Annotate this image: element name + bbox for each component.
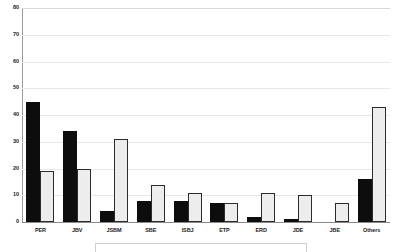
- bar-group: [316, 8, 353, 222]
- y-tick-label: 10: [0, 192, 19, 198]
- bar-series-2[interactable]: [298, 195, 312, 222]
- bar-series-2[interactable]: [151, 185, 165, 222]
- x-axis-label: Others: [353, 228, 390, 234]
- x-axis-label: PER: [22, 228, 59, 234]
- bar-series-1[interactable]: [63, 131, 77, 222]
- x-axis-label: SBE: [132, 228, 169, 234]
- y-tick-label: 80: [0, 5, 19, 11]
- bar-group: [206, 8, 243, 222]
- x-axis-label: ERD: [243, 228, 280, 234]
- bar-group: [96, 8, 133, 222]
- y-tick-label: 40: [0, 112, 19, 118]
- y-tick-label: 20: [0, 166, 19, 172]
- bar-group: [353, 8, 390, 222]
- bar-group: [280, 8, 317, 222]
- x-axis-label: JBV: [59, 228, 96, 234]
- bar-group: [169, 8, 206, 222]
- bar-group: [243, 8, 280, 222]
- x-axis-label: ETP: [206, 228, 243, 234]
- bar-series-1[interactable]: [137, 201, 151, 222]
- bar-group: [22, 8, 59, 222]
- x-axis-label: JDE: [280, 228, 317, 234]
- bar-series-2[interactable]: [40, 171, 54, 222]
- bar-series-2[interactable]: [114, 139, 128, 222]
- y-tick-label: 0: [0, 219, 19, 225]
- bar-series-2[interactable]: [224, 203, 238, 222]
- bar-series-1[interactable]: [358, 179, 372, 222]
- x-axis-labels: PERJBVJSBMSBEISBJETPERDJDEJBEOthers: [22, 228, 390, 234]
- bar-chart: 01020304050607080 PERJBVJSBMSBEISBJETPER…: [0, 0, 393, 252]
- bar-series-1[interactable]: [100, 211, 114, 222]
- bar-series-2[interactable]: [77, 169, 91, 223]
- y-tick-label: 60: [0, 59, 19, 65]
- bar-groups: [22, 8, 390, 222]
- bottom-frame: [95, 243, 307, 252]
- bar-series-2[interactable]: [335, 203, 349, 222]
- bar-series-1[interactable]: [210, 203, 224, 222]
- plot-area: [22, 8, 390, 222]
- x-axis-label: JBE: [316, 228, 353, 234]
- bar-series-2[interactable]: [372, 107, 386, 222]
- bar-group: [132, 8, 169, 222]
- bar-series-1[interactable]: [284, 219, 298, 222]
- bar-series-2[interactable]: [188, 193, 202, 222]
- bar-group: [59, 8, 96, 222]
- y-tick-label: 30: [0, 139, 19, 145]
- bar-series-1[interactable]: [174, 201, 188, 222]
- bar-series-1[interactable]: [26, 102, 40, 222]
- y-tick-label: 70: [0, 32, 19, 38]
- x-axis-label: ISBJ: [169, 228, 206, 234]
- bar-series-1[interactable]: [247, 217, 261, 222]
- gridline-0: [22, 222, 390, 223]
- y-tick-label: 50: [0, 85, 19, 91]
- x-axis-label: JSBM: [96, 228, 133, 234]
- bar-series-2[interactable]: [261, 193, 275, 222]
